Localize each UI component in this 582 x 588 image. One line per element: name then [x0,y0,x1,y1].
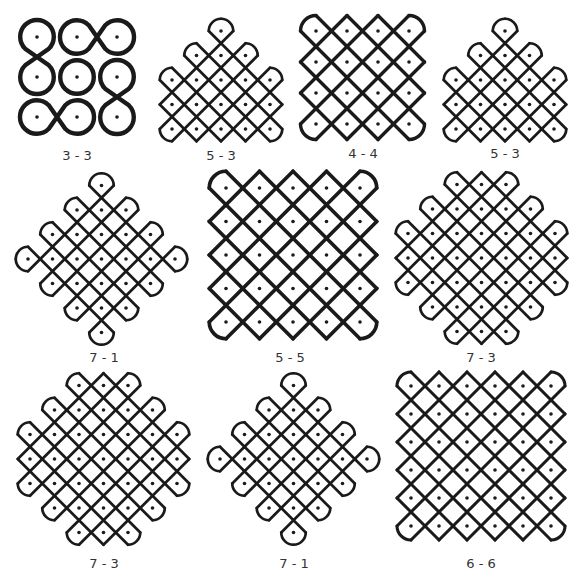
kolam-dot [521,524,525,528]
kolam-dot [465,496,469,500]
kolam-dot [465,468,469,472]
kolam-dot [409,384,413,388]
kolam-dot [465,524,469,528]
kolam-dot [493,384,497,388]
kolam-dot [437,524,441,528]
kolam-dot [549,524,553,528]
kolam-drawing [0,0,582,588]
kolam-dot [465,384,469,388]
kolam-dot [521,440,525,444]
kolam-dot [409,468,413,472]
kolam-dot [549,384,553,388]
kolam-dot [521,468,525,472]
kolam-dot [437,468,441,472]
kolam-dot [493,524,497,528]
kolam-dot [493,440,497,444]
kolam-dot [409,496,413,500]
kolam-dot [549,412,553,416]
kolam-dot [437,440,441,444]
kolam-dot [437,384,441,388]
kolam-dot [409,412,413,416]
kolam-dot [465,440,469,444]
kolam-dot [437,496,441,500]
kolam-dot [493,496,497,500]
kolam-dot [521,412,525,416]
kolam-dot [409,524,413,528]
kolam-label: 6 - 6 [466,556,496,571]
kolam-dot [493,468,497,472]
kolam-dot [521,384,525,388]
kolam-dot [493,412,497,416]
kolam-dot [549,440,553,444]
kolam-dot [549,468,553,472]
kolam-dot [549,496,553,500]
kolam-dot [521,496,525,500]
kolam-dot [409,440,413,444]
kolam-dot [437,412,441,416]
kolam-dot [465,412,469,416]
